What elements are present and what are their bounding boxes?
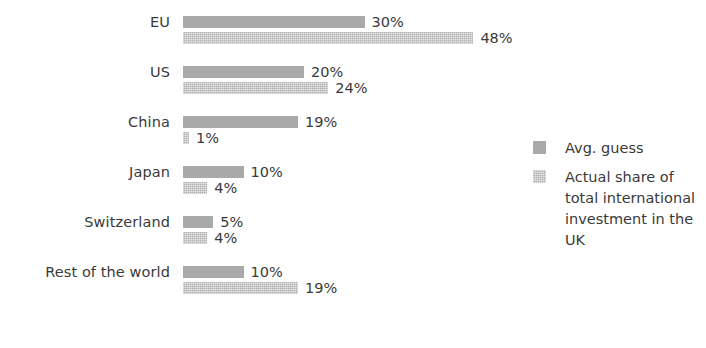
category-label-rest-of-the-world: Rest of the world (0, 265, 170, 279)
bar-value-label: 1% (196, 130, 219, 146)
legend-entry: Actual share of total international inve… (533, 167, 706, 251)
bar-chart: EU30%48%US20%24%China19%1%Japan10%4%Swit… (0, 0, 706, 348)
bar-value-label: 10% (251, 264, 283, 280)
bar-row: 19% (183, 116, 368, 128)
bar-value-label: 24% (335, 80, 367, 96)
chart-legend: Avg. guessActual share of total internat… (533, 138, 706, 259)
bar-actual-share (183, 182, 207, 194)
bar-row: 1% (183, 132, 259, 144)
category-label-switzerland: Switzerland (0, 215, 170, 229)
bar-avg-guess (183, 116, 298, 128)
bar-avg-guess (183, 216, 213, 228)
bar-actual-share (183, 82, 328, 94)
category-label-china: China (0, 115, 170, 129)
bar-value-label: 4% (214, 230, 237, 246)
bar-row: 20% (183, 66, 374, 78)
category-label-japan: Japan (0, 165, 170, 179)
bar-value-label: 20% (311, 64, 343, 80)
bar-value-label: 19% (305, 280, 337, 296)
bar-value-label: 19% (305, 114, 337, 130)
bar-value-label: 5% (220, 214, 243, 230)
bar-value-label: 30% (372, 14, 404, 30)
bar-avg-guess (183, 66, 304, 78)
bar-row: 4% (183, 232, 277, 244)
bar-actual-share (183, 232, 207, 244)
bar-value-label: 10% (251, 164, 283, 180)
bar-avg-guess (183, 166, 244, 178)
bar-row: 5% (183, 216, 283, 228)
bar-actual-share (183, 282, 298, 294)
category-label-eu: EU (0, 15, 170, 29)
bar-row: 10% (183, 166, 314, 178)
bar-row: 30% (183, 16, 435, 28)
bar-row: 19% (183, 282, 368, 294)
bar-actual-share (183, 132, 189, 144)
bar-value-label: 4% (214, 180, 237, 196)
bar-avg-guess (183, 266, 244, 278)
legend-entry: Avg. guess (533, 138, 706, 159)
bar-row: 48% (183, 32, 543, 44)
legend-label: Avg. guess (565, 138, 706, 159)
bar-row: 24% (183, 82, 398, 94)
bar-actual-share (183, 32, 473, 44)
legend-label: Actual share of total international inve… (565, 167, 706, 251)
bar-avg-guess (183, 16, 365, 28)
bar-value-label: 48% (480, 30, 512, 46)
bar-row: 10% (183, 266, 314, 278)
chart-plot-area: EU30%48%US20%24%China19%1%Japan10%4%Swit… (0, 0, 520, 348)
legend-swatch-icon (533, 170, 546, 183)
category-label-us: US (0, 65, 170, 79)
legend-swatch-icon (533, 141, 546, 154)
bar-row: 4% (183, 182, 277, 194)
